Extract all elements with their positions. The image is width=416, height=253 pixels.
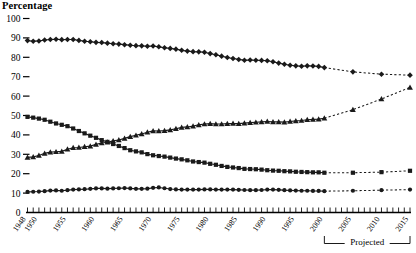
data-point-marker bbox=[282, 61, 288, 67]
data-point-marker bbox=[93, 40, 99, 46]
data-point-marker bbox=[351, 189, 355, 193]
data-point-marker bbox=[157, 185, 161, 189]
data-point-marker bbox=[288, 169, 292, 173]
data-point-marker bbox=[151, 186, 155, 190]
y-axis-tick-marks bbox=[23, 19, 30, 194]
data-point-marker bbox=[237, 188, 241, 192]
data-point-marker bbox=[54, 188, 58, 192]
data-point-marker bbox=[134, 149, 138, 153]
data-point-marker bbox=[88, 187, 92, 191]
y-tick-label: 10 bbox=[11, 189, 21, 199]
data-point-marker bbox=[191, 159, 195, 163]
data-point-marker bbox=[105, 140, 109, 144]
data-point-marker bbox=[242, 167, 246, 171]
series-triangle bbox=[25, 84, 413, 159]
data-point-marker bbox=[317, 170, 321, 174]
data-point-marker bbox=[151, 153, 155, 157]
data-point-marker bbox=[316, 64, 322, 70]
data-point-marker bbox=[82, 131, 86, 135]
data-point-marker bbox=[259, 168, 263, 172]
data-point-marker bbox=[264, 58, 270, 64]
data-point-marker bbox=[99, 40, 105, 46]
data-point-marker bbox=[30, 38, 36, 44]
data-point-marker bbox=[379, 170, 383, 174]
data-point-marker bbox=[43, 118, 47, 122]
data-point-marker bbox=[162, 186, 166, 190]
data-point-marker bbox=[208, 162, 212, 166]
x-tick-label: 1955 bbox=[51, 215, 68, 233]
data-point-marker bbox=[293, 63, 299, 69]
data-point-marker bbox=[407, 72, 413, 78]
data-point-marker bbox=[168, 155, 172, 159]
series-line-projected bbox=[324, 171, 410, 173]
data-point-marker bbox=[277, 169, 281, 173]
data-point-marker bbox=[254, 188, 258, 192]
data-point-marker bbox=[122, 186, 126, 190]
data-point-marker bbox=[122, 42, 128, 48]
data-point-marker bbox=[54, 121, 58, 125]
y-tick-label: 90 bbox=[11, 33, 21, 43]
data-point-marker bbox=[282, 169, 286, 173]
data-point-marker bbox=[94, 136, 98, 140]
data-point-marker bbox=[317, 189, 321, 193]
data-point-marker bbox=[162, 45, 168, 51]
series-line-observed bbox=[28, 117, 325, 173]
data-point-marker bbox=[111, 186, 115, 190]
y-tick-label: 70 bbox=[11, 72, 21, 82]
data-point-marker bbox=[140, 150, 144, 154]
data-point-marker bbox=[190, 49, 196, 55]
data-point-marker bbox=[82, 38, 88, 44]
x-tick-label: 1990 bbox=[251, 215, 268, 233]
data-point-marker bbox=[180, 157, 184, 161]
data-point-marker bbox=[168, 187, 172, 191]
data-point-marker bbox=[287, 62, 293, 68]
data-point-marker bbox=[265, 188, 269, 192]
data-point-marker bbox=[202, 49, 208, 55]
data-point-marker bbox=[311, 189, 315, 193]
data-point-marker bbox=[37, 189, 41, 193]
data-point-marker bbox=[305, 170, 309, 174]
data-point-marker bbox=[42, 37, 48, 43]
data-point-marker bbox=[294, 170, 298, 174]
data-point-marker bbox=[322, 65, 328, 71]
data-point-marker bbox=[196, 49, 202, 55]
data-point-marker bbox=[173, 46, 179, 52]
x-tick-label: 2000 bbox=[308, 215, 325, 233]
y-tick-label: 80 bbox=[11, 53, 21, 63]
data-point-marker bbox=[294, 188, 298, 192]
x-tick-label: 1995 bbox=[279, 215, 296, 233]
data-point-marker bbox=[247, 57, 253, 63]
data-point-marker bbox=[179, 48, 185, 54]
data-point-marker bbox=[180, 188, 184, 192]
x-tick-label: 1970 bbox=[137, 215, 154, 233]
data-point-marker bbox=[65, 37, 71, 43]
series-diamond bbox=[25, 36, 413, 77]
data-point-marker bbox=[117, 186, 121, 190]
data-point-marker bbox=[322, 189, 326, 193]
data-point-marker bbox=[185, 48, 191, 54]
data-point-marker bbox=[71, 188, 75, 192]
data-point-marker bbox=[277, 188, 281, 192]
data-point-marker bbox=[36, 38, 42, 44]
data-point-marker bbox=[167, 46, 173, 52]
data-point-marker bbox=[242, 188, 246, 192]
x-tick-label: 1960 bbox=[80, 215, 97, 233]
data-point-marker bbox=[248, 167, 252, 171]
data-point-marker bbox=[270, 59, 276, 65]
data-point-marker bbox=[322, 171, 326, 175]
data-point-marker bbox=[299, 63, 305, 69]
x-tick-label: 1950 bbox=[23, 215, 40, 233]
data-point-marker bbox=[100, 186, 104, 190]
data-point-marker bbox=[25, 38, 31, 44]
data-point-marker bbox=[48, 120, 52, 124]
data-point-marker bbox=[276, 60, 282, 66]
data-point-marker bbox=[265, 168, 269, 172]
projected-label: Projected bbox=[350, 237, 384, 247]
data-point-marker bbox=[87, 39, 93, 45]
data-point-marker bbox=[185, 158, 189, 162]
data-point-marker bbox=[311, 170, 315, 174]
x-tick-label: 1985 bbox=[222, 215, 239, 233]
data-point-marker bbox=[282, 188, 286, 192]
data-point-marker bbox=[157, 154, 161, 158]
data-point-marker bbox=[128, 148, 132, 152]
